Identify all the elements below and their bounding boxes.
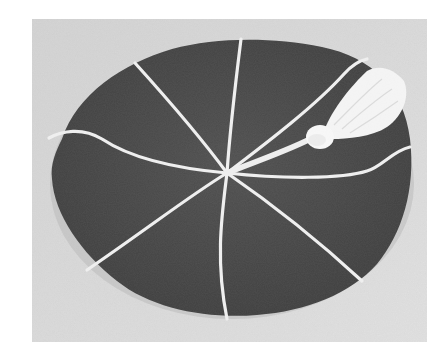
cap-illustration <box>32 19 427 342</box>
photo: Grayscale photograph of a dark round cap… <box>32 19 427 342</box>
